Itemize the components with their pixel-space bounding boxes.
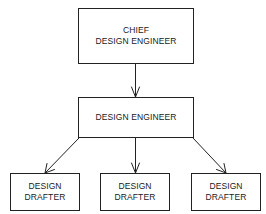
node-label-line: DESIGN: [209, 181, 242, 192]
arrow-engineer-to-drafter-right: [193, 138, 226, 173]
node-design-drafter-right: DESIGN DRAFTER: [191, 173, 261, 211]
node-label-line: DESIGN ENGINEER: [96, 112, 177, 123]
arrow-engineer-to-drafter-center: [132, 138, 140, 173]
node-design-drafter-left: DESIGN DRAFTER: [10, 173, 80, 211]
node-label-line: DESIGN: [118, 181, 151, 192]
node-label-line: DESIGN: [28, 181, 61, 192]
node-label-line: DRAFTER: [25, 192, 66, 203]
arrow-chief-to-engineer: [132, 64, 140, 97]
arrow-engineer-to-drafter-left: [45, 138, 79, 173]
node-design-engineer: DESIGN ENGINEER: [78, 97, 194, 138]
node-chief-design-engineer: CHIEF DESIGN ENGINEER: [78, 8, 194, 64]
node-design-drafter-center: DESIGN DRAFTER: [100, 173, 170, 211]
node-label-line: DESIGN ENGINEER: [96, 36, 177, 47]
node-label-line: DRAFTER: [115, 192, 156, 203]
node-label-line: DRAFTER: [206, 192, 247, 203]
node-label-line: CHIEF: [123, 25, 149, 36]
